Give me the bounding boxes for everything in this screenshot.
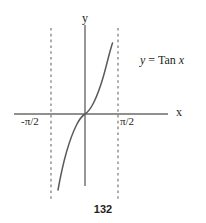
tangent-graph-figure: y x -π/2 π/2 y = Tan x [0, 0, 206, 223]
page-number: 132 [0, 203, 206, 215]
equation-function-name: Tan [158, 53, 176, 67]
x-axis-label: x [176, 106, 182, 118]
equation-dependent-var: y [140, 53, 145, 67]
tick-label-pi-over-2: π/2 [120, 116, 134, 127]
equation-operator: = [148, 53, 155, 67]
y-axis-label: y [82, 12, 88, 24]
tick-label-neg-pi-over-2: -π/2 [21, 116, 39, 127]
equation-independent-var: x [179, 53, 184, 67]
equation-label: y = Tan x [140, 54, 184, 66]
